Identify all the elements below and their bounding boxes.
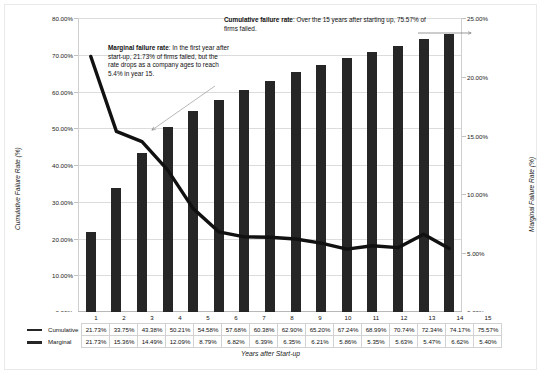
- y-tick-mark-right: [462, 77, 466, 78]
- y-tick-label-right: 5.00%: [467, 250, 485, 257]
- table-cell-value: 54.58%: [194, 324, 222, 336]
- table-cell-year: 1: [82, 312, 110, 324]
- table-cell-value: 8.79%: [194, 336, 222, 348]
- table-cell-value: 43.38%: [138, 324, 166, 336]
- table-cell-value: 21.73%: [82, 324, 110, 336]
- table-cell-value: 33.75%: [110, 324, 138, 336]
- y-tick-label-left: 40.00%: [52, 162, 73, 169]
- y-tick-mark-right: [462, 194, 466, 195]
- table-cell-year: 6: [222, 312, 250, 324]
- table-cell-value: 74.17%: [446, 324, 474, 336]
- table-cell-value: 75.57%: [474, 324, 502, 336]
- table-row-years: 123456789101112131415: [24, 312, 502, 324]
- row-label-marginal: Marginal: [46, 336, 82, 348]
- chart-screenshot: Cumulative Failure Rate (%) Marginal Fai…: [0, 0, 541, 374]
- table-cell-value: 21.73%: [82, 336, 110, 348]
- table-row-marginal: Marginal 21.73%15.36%14.49%12.09%8.79%6.…: [24, 336, 502, 348]
- data-table: 123456789101112131415 Cumulative 21.73%3…: [24, 312, 502, 348]
- table-cell-year: 7: [250, 312, 278, 324]
- table-cell-value: 6.21%: [306, 336, 334, 348]
- y-tick-label-right: 25.00%: [467, 15, 488, 22]
- legend-swatch-cumulative: [24, 324, 46, 336]
- annotation-cumulative: Cumulative failure rate: Over the 15 yea…: [224, 16, 430, 33]
- table-cell-value: 62.90%: [278, 324, 306, 336]
- y-tick-label-right: 10.00%: [467, 191, 488, 198]
- legend-swatch-marginal: [24, 336, 46, 348]
- table-cell-year: 3: [138, 312, 166, 324]
- y-tick-mark-right: [462, 136, 466, 137]
- table-cell-year: 13: [418, 312, 446, 324]
- legend-swatch-line-icon: [27, 341, 42, 344]
- annotation-cumulative-lead: Cumulative failure rate: [224, 16, 293, 23]
- table-cell-year: 14: [446, 312, 474, 324]
- y-tick-label-left: 70.00%: [52, 51, 73, 58]
- table-cell-value: 6.39%: [250, 336, 278, 348]
- table-cell-year: 2: [110, 312, 138, 324]
- table-row-cumulative: Cumulative 21.73%33.75%43.38%50.21%54.58…: [24, 324, 502, 336]
- table-cell-year: 8: [278, 312, 306, 324]
- table-cell-value: 6.62%: [446, 336, 474, 348]
- table-cell-value: 6.35%: [278, 336, 306, 348]
- table-cell-year: 4: [166, 312, 194, 324]
- legend-spacer: [24, 312, 46, 324]
- legend-swatch-bar-icon: [27, 329, 42, 331]
- y-tick-label-left: 20.00%: [52, 235, 73, 242]
- annotation-marginal: Marginal failure rate: In the first year…: [108, 44, 230, 79]
- table-cell-year: 9: [306, 312, 334, 324]
- table-cell-year: 15: [474, 312, 502, 324]
- table-cell-value: 5.40%: [474, 336, 502, 348]
- y-tick-label-right: 15.00%: [467, 132, 488, 139]
- table-cell-year: 12: [390, 312, 418, 324]
- table-cell-value: 65.20%: [306, 324, 334, 336]
- table-cell-value: 67.24%: [334, 324, 362, 336]
- table-cell-value: 15.36%: [110, 336, 138, 348]
- table-cell-year: 10: [334, 312, 362, 324]
- table-cell-value: 6.82%: [222, 336, 250, 348]
- table-cell-value: 14.49%: [138, 336, 166, 348]
- y-tick-mark-right: [462, 253, 466, 254]
- rowlabel-spacer: [46, 312, 82, 324]
- row-label-cumulative: Cumulative: [46, 324, 82, 336]
- table-cell-value: 5.35%: [362, 336, 390, 348]
- y-tick-label-left: 60.00%: [52, 88, 73, 95]
- y-axis-title-left: Cumulative Failure Rate (%): [14, 147, 21, 230]
- y-tick-label-left: 10.00%: [52, 272, 73, 279]
- y-tick-label-left: 30.00%: [52, 198, 73, 205]
- y-tick-label-left: 80.00%: [52, 15, 73, 22]
- table-cell-year: 11: [362, 312, 390, 324]
- table-cell-value: 72.34%: [418, 324, 446, 336]
- table-cell-value: 60.38%: [250, 324, 278, 336]
- table-cell-year: 5: [194, 312, 222, 324]
- table-cell-value: 70.74%: [390, 324, 418, 336]
- x-axis-title: Years after Start-up: [0, 350, 541, 357]
- table-cell-value: 50.21%: [166, 324, 194, 336]
- y-tick-mark-right: [462, 18, 466, 19]
- annotation-marginal-lead: Marginal failure rate: [108, 44, 169, 51]
- table-cell-value: 5.63%: [390, 336, 418, 348]
- table-cell-value: 57.68%: [222, 324, 250, 336]
- table-cell-value: 68.99%: [362, 324, 390, 336]
- line-path: [91, 56, 449, 249]
- table-cell-value: 12.09%: [166, 336, 194, 348]
- table-cell-value: 5.86%: [334, 336, 362, 348]
- y-axis-title-right: Marginal Failure Rate (%): [528, 157, 535, 232]
- y-tick-label-left: 50.00%: [52, 125, 73, 132]
- table-cell-value: 5.47%: [418, 336, 446, 348]
- y-tick-label-right: 20.00%: [467, 73, 488, 80]
